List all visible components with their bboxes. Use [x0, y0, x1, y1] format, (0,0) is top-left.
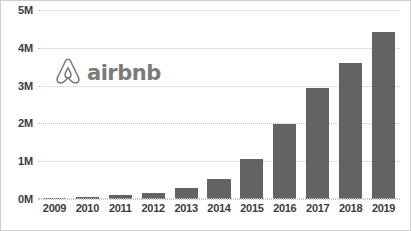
y-tick-label: 2M	[3, 118, 33, 129]
bar	[372, 32, 395, 199]
y-tick-label: 3M	[3, 81, 33, 92]
x-tick-label: 2012	[137, 201, 170, 215]
bar	[306, 88, 329, 200]
x-axis: 2009201020112012201320142015201620172018…	[38, 201, 400, 219]
x-tick-label: 2018	[334, 201, 367, 215]
y-tick-label: 0M	[3, 194, 33, 205]
bar	[339, 63, 362, 199]
bar	[273, 124, 296, 199]
y-tick-label: 1M	[3, 156, 33, 167]
x-tick-label: 2013	[170, 201, 203, 215]
plot-area	[38, 10, 400, 199]
x-tick-label: 2010	[71, 201, 104, 215]
x-axis-line	[38, 198, 400, 199]
airbnb-wordmark: airbnb	[87, 63, 161, 84]
x-tick-label: 2011	[104, 201, 137, 215]
y-axis: 0M1M2M3M4M5M	[0, 10, 33, 199]
bar-chart: 0M1M2M3M4M5M 200920102011201220132014201…	[0, 0, 411, 231]
airbnb-logo: airbnb	[55, 58, 161, 88]
x-tick-label: 2014	[203, 201, 236, 215]
x-tick-label: 2019	[367, 201, 400, 215]
bar	[240, 159, 263, 199]
bar	[207, 179, 230, 199]
x-tick-label: 2016	[268, 201, 301, 215]
gridline	[38, 199, 400, 200]
x-tick-label: 2017	[301, 201, 334, 215]
x-tick-label: 2009	[38, 201, 71, 215]
bars-series	[38, 10, 400, 199]
x-tick-label: 2015	[235, 201, 268, 215]
airbnb-belo-icon	[55, 57, 81, 89]
y-tick-label: 4M	[3, 43, 33, 54]
y-tick-label: 5M	[3, 5, 33, 16]
